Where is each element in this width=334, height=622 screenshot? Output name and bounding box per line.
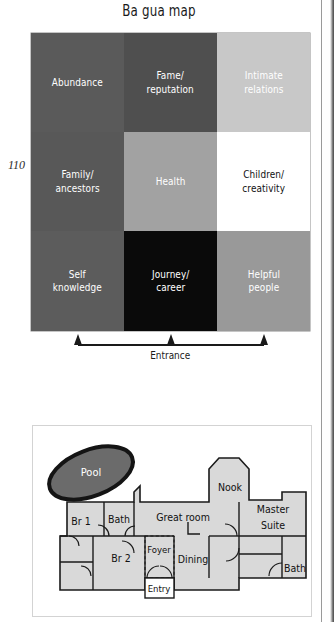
bagua-cell-label: Abundance <box>52 76 103 89</box>
entrance-arrow-icon <box>260 334 268 345</box>
bagua-cell-fame-reputation: Fame/reputation <box>124 33 217 132</box>
entrance-label: Entrance <box>31 349 310 362</box>
bagua-cell-helpful-people: Helpfulpeople <box>217 231 310 331</box>
page-scan-edge <box>330 0 334 622</box>
floorplan-drawing: Pool <box>33 426 311 616</box>
bagua-cell-label: Fame/reputation <box>147 69 194 96</box>
bagua-cell-abundance: Abundance <box>31 33 124 132</box>
room-label-bath-top: Bath <box>108 513 130 525</box>
room-label-br1: Br 1 <box>71 515 90 527</box>
page-scan-gutter-line <box>321 0 322 622</box>
bagua-cell-label: Health <box>156 175 186 188</box>
room-label-foyer: Foyer <box>147 544 171 555</box>
floorplan-figure: Pool <box>33 426 311 616</box>
bagua-cell-label: Children/creativity <box>242 168 285 195</box>
bagua-cell-label: Helpfulpeople <box>247 268 279 295</box>
page-number: 110 <box>8 158 25 173</box>
pool-shape: Pool <box>42 436 141 510</box>
page-title: Ba gua map <box>19 2 299 20</box>
entrance-arrow-icon <box>74 334 82 345</box>
bagua-cell-journey-career: Journey/career <box>124 231 217 331</box>
bagua-cell-intimate-relations: Intimaterelations <box>217 33 310 132</box>
bagua-cell-label: Journey/career <box>152 268 189 295</box>
bagua-cell-label: Family/ancestors <box>55 168 99 195</box>
bagua-cell-label: Intimaterelations <box>244 69 283 96</box>
room-label-br2: Br 2 <box>111 552 130 564</box>
bagua-cell-children-creativity: Children/creativity <box>217 132 310 231</box>
bagua-cell-family-ancestors: Family/ancestors <box>31 132 124 231</box>
bagua-cell-self-knowledge: Selfknowledge <box>31 231 124 331</box>
entrance-indicator: Entrance <box>31 331 310 375</box>
bagua-grid: Abundance Fame/reputation Intimaterelati… <box>31 33 310 331</box>
room-label-master-line2: Suite <box>261 519 285 531</box>
entrance-arrow-icon <box>167 334 175 345</box>
room-label-bath-right: Bath <box>284 562 306 574</box>
pool-label: Pool <box>81 466 101 479</box>
bagua-cell-label: Selfknowledge <box>53 268 102 295</box>
room-label-entry: Entry <box>148 583 171 594</box>
bagua-cell-health: Health <box>124 132 217 231</box>
room-label-dining: Dining <box>178 553 209 565</box>
room-label-master-line1: Master <box>257 503 289 515</box>
room-label-great-room: Great room <box>156 511 210 523</box>
room-label-nook: Nook <box>218 481 243 493</box>
